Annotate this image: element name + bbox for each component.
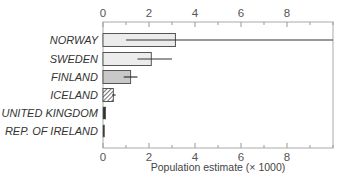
x-axis-label: Population estimate (× 1000) [151,161,286,173]
category-labels: NORWAYSWEDENFINLANDICELANDUNITED KINGDOM… [1,34,98,137]
category-label: REP. OF IRELAND [5,125,98,137]
bar-united-kingdom [103,107,106,119]
category-label: FINLAND [51,71,98,83]
bars [103,34,333,138]
bar-rep-of-ireland [103,125,105,137]
top-tick-label: 8 [284,7,290,19]
category-label: NORWAY [50,34,99,46]
top-tick-label: 2 [146,7,152,19]
top-tick-label: 0 [100,7,106,19]
category-label: ICELAND [50,89,98,101]
bottom-axis: 02468 [100,143,333,163]
top-tick-label: 4 [192,7,199,19]
top-axis: 02468 [100,7,333,27]
top-tick-label: 6 [238,7,244,19]
bar-iceland [103,89,113,102]
category-label: UNITED KINGDOM [1,107,98,119]
population-bar-chart: 02468 02468 NORWAYSWEDENFINLANDICELANDUN… [0,0,347,183]
category-label: SWEDEN [50,53,98,65]
bottom-tick-label: 0 [100,151,106,163]
